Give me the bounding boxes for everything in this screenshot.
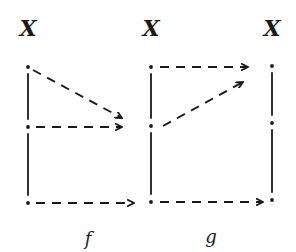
map-arrows	[33, 67, 263, 203]
set-point	[270, 64, 274, 68]
set-point	[270, 198, 274, 202]
set-point	[149, 200, 153, 204]
map-label-f: f	[85, 228, 92, 249]
set-point	[149, 65, 153, 69]
set-point	[26, 125, 30, 129]
set-point	[26, 201, 30, 205]
set-point	[149, 124, 153, 128]
set-label-x-left: X	[19, 15, 36, 41]
map-f-arrow	[33, 70, 122, 118]
set-label-x-middle: X	[142, 15, 159, 41]
map-label-g: g	[205, 226, 217, 247]
set-point	[26, 65, 30, 69]
set-label-x-right: X	[263, 15, 280, 41]
map-g-arrow	[163, 82, 243, 126]
set-point	[270, 121, 274, 125]
set-vertical-lines	[28, 73, 272, 195]
mapping-diagram: X X X f g	[0, 0, 296, 252]
